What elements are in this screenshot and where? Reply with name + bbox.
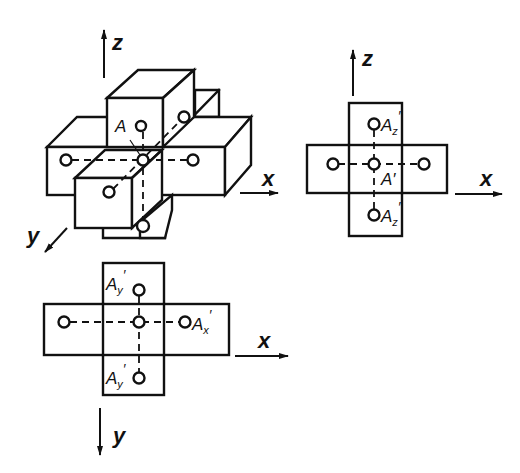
z-axis-label: z xyxy=(361,46,373,71)
y-axis-label: y xyxy=(26,223,41,248)
hole-back xyxy=(179,112,190,123)
hole-center xyxy=(134,317,145,328)
top-view: Ay′ Ax′ Ay′ x y xyxy=(44,263,288,455)
x-axis-label: x xyxy=(479,166,493,191)
hole-bottom xyxy=(134,373,145,384)
diagram-canvas: z A xyxy=(0,0,520,473)
hole-top xyxy=(369,119,380,130)
hole-bottom xyxy=(137,220,149,232)
hole-left xyxy=(328,159,339,170)
point-a-label: A xyxy=(114,117,126,136)
y-axis-label: y xyxy=(112,423,127,448)
hole-front xyxy=(104,187,115,198)
hole-top xyxy=(136,121,146,131)
x-axis-label: x xyxy=(261,166,275,191)
y-axis-arrow xyxy=(45,228,67,252)
label-a-prime: A′ xyxy=(380,170,396,189)
hole-center xyxy=(369,159,380,170)
hole-right xyxy=(180,317,191,328)
isometric-view: z A xyxy=(26,30,278,252)
hole-left xyxy=(59,317,70,328)
front-view: z Az′ A′ Az′ x xyxy=(307,46,502,236)
hole-right xyxy=(419,159,430,170)
x-axis-label: x xyxy=(257,328,271,353)
hole-bottom xyxy=(369,210,380,221)
z-axis-label: z xyxy=(111,30,123,55)
hole-top xyxy=(134,285,145,296)
hole-right xyxy=(188,155,199,166)
hole-center-point-a xyxy=(138,155,149,166)
hole-left xyxy=(61,155,72,166)
y-block-front-face xyxy=(75,178,132,228)
